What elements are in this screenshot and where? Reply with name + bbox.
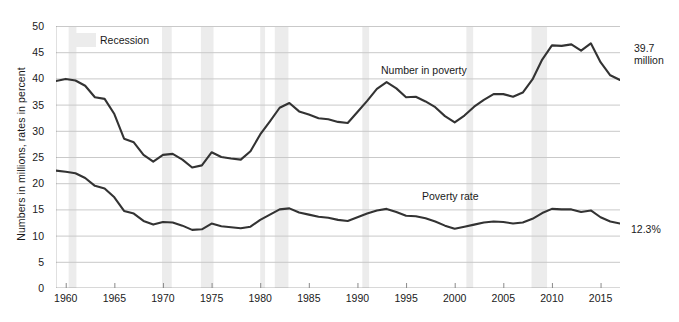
x-tick-1995: 1995 [394, 292, 417, 304]
x-tick-2015: 2015 [589, 292, 612, 304]
x-tick-1960: 1960 [54, 292, 77, 304]
recession-legend-label: Recession [100, 34, 149, 46]
y-tick-30: 30 [18, 125, 44, 137]
x-tick-1975: 1975 [200, 292, 223, 304]
poverty-rate-end-value: 12.3% [631, 223, 661, 235]
y-tick-20: 20 [18, 177, 44, 189]
x-tick-2005: 2005 [492, 292, 515, 304]
y-tick-10: 10 [18, 230, 44, 242]
y-tick-50: 50 [18, 20, 44, 32]
y-tick-35: 35 [18, 99, 44, 111]
y-tick-45: 45 [18, 46, 44, 58]
number-in-poverty-label: Number in poverty [381, 64, 467, 76]
number-in-poverty-end-value: 39.7 million [634, 42, 664, 66]
x-tick-1990: 1990 [346, 292, 369, 304]
x-tick-1970: 1970 [151, 292, 174, 304]
number-in-poverty-end-value-line2: million [634, 54, 664, 66]
y-tick-25: 25 [18, 151, 44, 163]
chart-svg [56, 26, 620, 288]
y-tick-15: 15 [18, 203, 44, 215]
y-tick-40: 40 [18, 72, 44, 84]
y-tick-0: 0 [18, 282, 44, 294]
x-tick-1980: 1980 [249, 292, 272, 304]
x-tick-2000: 2000 [443, 292, 466, 304]
chart-canvas: Numbers in millions, rates in percent 05… [0, 0, 679, 322]
y-tick-5: 5 [18, 256, 44, 268]
x-tick-2010: 2010 [540, 292, 563, 304]
number-in-poverty-end-value-line1: 39.7 [634, 42, 664, 54]
x-tick-1965: 1965 [103, 292, 126, 304]
poverty-rate-label: Poverty rate [422, 190, 479, 202]
y-axis-tick-labels: 05101520253035404550 [14, 0, 44, 322]
plot-area [56, 26, 620, 288]
x-tick-1985: 1985 [297, 292, 320, 304]
recession-legend-swatch [74, 33, 96, 47]
